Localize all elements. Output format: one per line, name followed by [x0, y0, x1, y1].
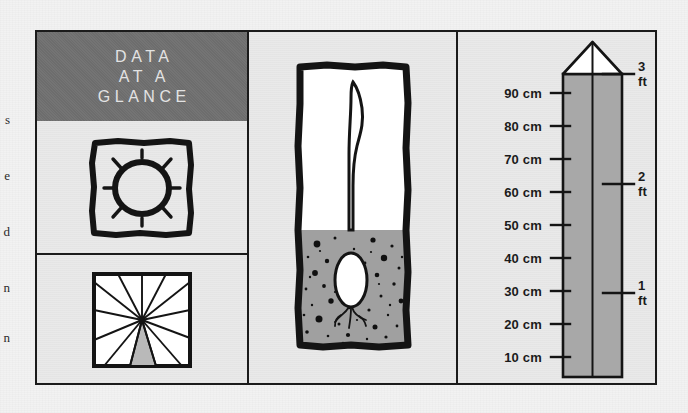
sun-icon-cell	[37, 123, 247, 253]
margin-text-fragment: s	[0, 112, 10, 128]
ruler-diagram: 90 cm 80 cm 70 cm 60 cm 50 cm 40 cm 30 c…	[458, 32, 655, 383]
ruler-column: 90 cm 80 cm 70 cm 60 cm 50 cm 40 cm 30 c…	[458, 32, 655, 383]
seedling-cross-section-icon	[291, 58, 415, 354]
ruler-cm-label: 60 cm	[470, 185, 542, 200]
figure-title-line-1: DATA	[111, 47, 174, 67]
seedling-illustration	[291, 58, 415, 358]
margin-text-fragment: n	[0, 330, 10, 346]
ruler-cm-label: 20 cm	[470, 317, 542, 332]
ruler-cm-label: 70 cm	[470, 152, 542, 167]
margin-text-fragment: d	[0, 224, 10, 240]
figure-title-line-3: GLANCE	[93, 87, 190, 107]
ruler-cm-label: 30 cm	[470, 284, 542, 299]
sun-hours-pie-cell	[37, 256, 247, 384]
ruler-cm-label: 80 cm	[470, 119, 542, 134]
ruler-ft-label: 2 ft	[638, 169, 655, 199]
seedling-column	[249, 32, 456, 383]
sun-hours-pie-icon	[90, 270, 194, 370]
page-background: s e d n n DATA AT A GLANCE	[0, 0, 688, 413]
ruler-cm-label: 50 cm	[470, 218, 542, 233]
margin-text-fragment: n	[0, 280, 10, 296]
margin-text-fragment: e	[0, 168, 10, 184]
figure-title-box: DATA AT A GLANCE	[37, 32, 247, 121]
ruler-cm-label: 10 cm	[470, 350, 542, 365]
ruler-ft-label: 3 ft	[638, 59, 655, 89]
icons-column: DATA AT A GLANCE	[37, 32, 247, 383]
icon-cell-divider	[37, 253, 247, 255]
ruler-ft-label: 1 ft	[638, 278, 655, 308]
sun-icon	[88, 137, 196, 239]
data-at-a-glance-figure: DATA AT A GLANCE	[35, 30, 657, 385]
ruler-cm-label: 40 cm	[470, 251, 542, 266]
figure-title-line-2: AT A	[114, 67, 170, 87]
ruler-cm-label: 90 cm	[470, 86, 542, 101]
